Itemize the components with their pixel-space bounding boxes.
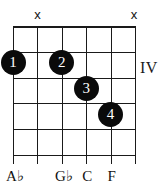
string-marker-2: x (30, 8, 44, 22)
string-tail-5 (111, 155, 112, 164)
note-label-string-1: A♭ (0, 168, 30, 185)
string-line-1 (13, 26, 14, 155)
string-line-3 (62, 26, 63, 155)
chord-diagram: x x .string-tail { top: 155px; } 1 2 3 4… (0, 0, 164, 189)
fret-line-2 (13, 78, 135, 79)
fret-line-5 (13, 155, 135, 156)
string-line-5 (111, 26, 112, 155)
finger-dot-1: 1 (1, 50, 26, 75)
string-tail-6 (135, 155, 136, 164)
note-label-string-5: F (97, 168, 127, 185)
string-tail-4 (86, 155, 87, 164)
position-label: IV (140, 59, 158, 77)
string-tail-2 (37, 155, 38, 164)
finger-dot-2: 2 (49, 50, 74, 75)
string-marker-6: x (127, 8, 141, 22)
nut-line (13, 26, 135, 28)
string-line-6 (135, 26, 136, 155)
finger-dot-3: 3 (74, 76, 99, 101)
fret-line-4 (13, 129, 135, 130)
string-tail-1 (13, 155, 14, 164)
string-tail-3 (62, 155, 63, 164)
finger-dot-4: 4 (98, 102, 123, 127)
fret-line-1 (13, 52, 135, 53)
string-line-2 (37, 26, 38, 155)
